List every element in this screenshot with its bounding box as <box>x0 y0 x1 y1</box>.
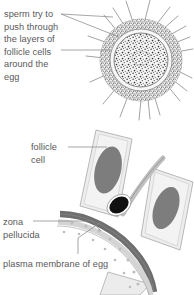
label-follicle-cell: follicle cell <box>31 141 57 166</box>
figure-canvas: sperm try to push through the layers of … <box>0 0 194 295</box>
label-plasma-membrane-of-egg: plasma membrane of egg <box>3 258 108 271</box>
label-sperm-try-to-push-through: sperm try to push through the layers of … <box>4 8 58 84</box>
egg-with-sperm-corona-illustration <box>86 0 193 120</box>
follicle-cell-right <box>141 168 193 250</box>
label-zona-pellucida: zona pellucida <box>3 216 40 241</box>
egg-cytoplasm <box>114 33 168 87</box>
